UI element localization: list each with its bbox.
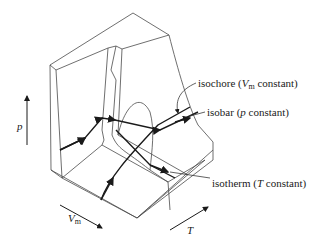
surface-outline (50, 13, 213, 218)
temperature-axis-label: T (187, 225, 193, 236)
isotherm-suffix: constant) (263, 177, 306, 189)
curves (60, 107, 198, 200)
vm-var: V (68, 212, 75, 224)
isobar-prefix: isobar ( (207, 106, 240, 118)
isochore-label: isochore (Vm constant) (198, 78, 298, 91)
isobar-suffix: constant) (246, 106, 289, 118)
isobar-label: isobar (p constant) (207, 107, 289, 118)
pvt-surface-diagram (0, 0, 319, 242)
isochore-suffix: constant) (255, 77, 298, 89)
pressure-axis-label: p (17, 121, 23, 132)
vm-axis-arrow (60, 205, 102, 228)
leaders (170, 83, 210, 178)
isotherm-prefix: isotherm ( (212, 177, 257, 189)
axis-arrows (27, 96, 208, 230)
molar-volume-axis-label: Vm (68, 213, 81, 226)
vm-sub: m (75, 217, 81, 226)
isotherm-label: isotherm (T constant) (212, 178, 306, 189)
isochore-prefix: isochore ( (198, 77, 242, 89)
